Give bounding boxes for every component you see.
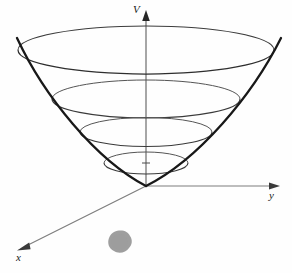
axis-group bbox=[17, 10, 280, 251]
paraboloid-diagram bbox=[0, 0, 292, 273]
figure-container: V y x bbox=[0, 0, 292, 273]
scan-smudge bbox=[108, 231, 132, 253]
arrow-down-left-icon bbox=[17, 243, 31, 251]
y-axis-label: y bbox=[269, 190, 274, 201]
v-axis-label: V bbox=[133, 4, 140, 15]
x-axis-label: x bbox=[16, 252, 21, 263]
arrow-up-icon bbox=[142, 10, 150, 21]
parabola-left-branch bbox=[17, 38, 146, 186]
parabola-outline bbox=[17, 38, 281, 186]
